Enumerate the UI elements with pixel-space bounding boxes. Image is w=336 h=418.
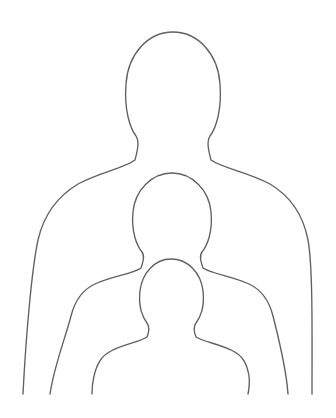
nested-figures-illustration: Nested Human Figure Outlines Three conce… bbox=[0, 0, 336, 418]
drawing-canvas: Nested Human Figure Outlines Three conce… bbox=[0, 0, 336, 418]
